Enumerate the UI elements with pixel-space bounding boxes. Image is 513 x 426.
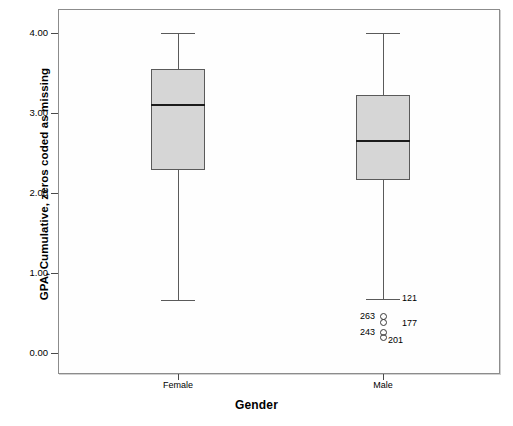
outlier-marker (380, 334, 387, 341)
median-line-female (151, 104, 205, 106)
box-male (356, 95, 410, 180)
outlier-label: 177 (402, 318, 417, 328)
whisker-cap-lower-male (366, 299, 400, 300)
outlier-label: 201 (388, 335, 403, 345)
plot-area: 121263177243201 (58, 9, 500, 374)
y-tick-label: 0.00 (8, 347, 48, 358)
x-axis-title: Gender (0, 398, 513, 412)
whisker-upper-male (383, 33, 384, 95)
whisker-lower-male (383, 180, 384, 299)
outlier-label: 263 (360, 311, 375, 321)
whisker-cap-upper-male (366, 33, 400, 34)
y-tick-label: 1.00 (8, 267, 48, 278)
whisker-lower-female (178, 170, 179, 300)
whisker-cap-lower-female (161, 300, 195, 301)
y-tick-mark (51, 353, 58, 354)
whisker-cap-upper-female (161, 33, 195, 34)
y-tick-label: 4.00 (8, 27, 48, 38)
x-tick-label-male: Male (323, 380, 443, 390)
whisker-upper-female (178, 33, 179, 69)
median-line-male (356, 140, 410, 142)
y-axis-title: GPA, Cumulative, zeros coded as missing (38, 34, 50, 334)
y-tick-mark (51, 193, 58, 194)
box-female (151, 69, 205, 170)
y-tick-mark (51, 113, 58, 114)
y-tick-label: 3.00 (8, 107, 48, 118)
y-tick-label: 2.00 (8, 187, 48, 198)
whisker-case-label: 121 (402, 293, 417, 303)
x-tick-label-female: Female (118, 380, 238, 390)
y-tick-mark (51, 33, 58, 34)
outlier-marker (380, 319, 387, 326)
boxplot-chart: GPA, Cumulative, zeros coded as missing … (0, 0, 513, 426)
y-tick-mark (51, 273, 58, 274)
outlier-label: 243 (360, 327, 375, 337)
